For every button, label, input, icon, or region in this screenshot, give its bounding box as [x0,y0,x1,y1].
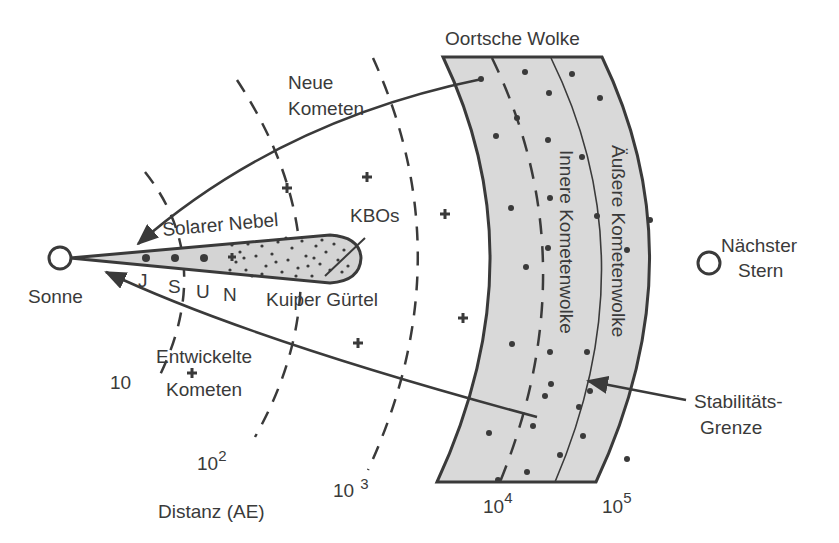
kuiper-belt-label: Kuiper Gürtel [266,289,378,310]
arc-1000 [368,58,418,470]
oort-cloud-diagram: Oortsche Wolke Neue Kometen Solarer Nebe… [0,0,839,543]
tick-100: 102 [197,447,226,474]
distance-axis-label: Distanz (AE) [158,501,265,522]
stability-label-2: Grenze [700,417,762,438]
nearest-star-label-1: Nächster [721,235,798,256]
planet-label-uranus: U [196,281,210,302]
evolved-comets-label-1: Entwickelte [156,346,252,367]
tick-10: 10 [110,372,131,393]
sun-label: Sonne [28,286,83,307]
new-comets-label-2: Kometen [288,98,364,119]
nearest-star-label-2: Stern [738,260,783,281]
stability-label-1: Stabilitäts- [694,391,783,412]
outer-comet-cloud-label: Äußere Kometenwolke [608,145,629,337]
new-comets-label-1: Neue [288,72,333,93]
nearest-star-icon [698,252,720,274]
solar-nebula-label: Solarer Nebel [162,209,280,240]
planet-label-neptune: N [223,284,237,305]
kbos-label: KBOs [350,205,400,226]
sun-icon [49,247,71,269]
planet-label-saturn: S [168,276,181,297]
evolved-comets-label-2: Kometen [166,379,242,400]
oort-cloud-label: Oortsche Wolke [445,28,580,49]
tick-1000: 103 [333,475,368,501]
tick-100000: 105 [602,489,631,517]
inner-comet-cloud-label: Innere Kometenwolke [556,150,577,334]
arc-10 [145,172,184,375]
tick-10000: 104 [483,489,512,517]
planet-label-jupiter: J [138,270,148,291]
